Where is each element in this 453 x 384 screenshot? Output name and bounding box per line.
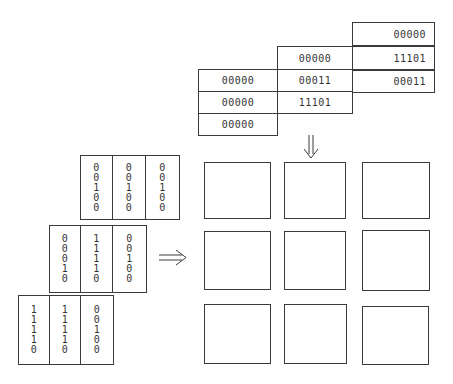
grid-cell-1-1 xyxy=(284,231,346,290)
hcell-left-2: 00000 xyxy=(198,113,278,136)
vcell-middle-0: 00010 xyxy=(49,225,81,293)
vcell-top-1: 00100 xyxy=(112,155,146,220)
vcell-top-2: 00100 xyxy=(145,155,180,220)
vcell-bottom-0: 11110 xyxy=(18,295,50,365)
vcell-top-0: 00100 xyxy=(80,155,113,220)
hcell-right-1: 11101 xyxy=(352,46,435,70)
double-arrow-right-icon xyxy=(158,248,188,268)
hcell-middle-1: 00011 xyxy=(277,69,353,92)
vcell-bottom-1: 11110 xyxy=(49,295,81,365)
vcell-bottom-2: 00100 xyxy=(80,295,114,365)
vcell-middle-1: 11110 xyxy=(80,225,113,293)
grid-cell-0-2 xyxy=(362,162,430,219)
vcell-middle-2: 00100 xyxy=(112,225,147,293)
grid-cell-1-2 xyxy=(362,230,430,291)
hcell-left-1: 00000 xyxy=(198,91,278,114)
grid-cell-2-2 xyxy=(362,306,429,365)
hcell-right-0: 00000 xyxy=(352,22,435,46)
grid-cell-1-0 xyxy=(204,231,271,290)
hcell-middle-2: 11101 xyxy=(277,91,353,114)
hcell-left-0: 00000 xyxy=(198,69,278,92)
grid-cell-2-1 xyxy=(284,304,347,364)
grid-cell-0-0 xyxy=(204,162,271,219)
grid-cell-0-1 xyxy=(284,162,346,219)
grid-cell-2-0 xyxy=(204,304,271,364)
hcell-right-2: 00011 xyxy=(352,70,435,93)
double-arrow-down-icon xyxy=(302,134,320,160)
hcell-middle-0: 00000 xyxy=(277,46,353,70)
